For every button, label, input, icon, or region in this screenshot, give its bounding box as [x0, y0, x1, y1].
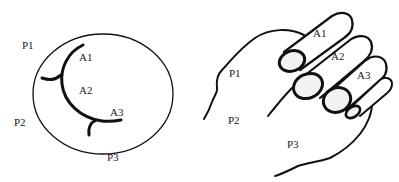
label-left-p2: P2 — [14, 117, 26, 128]
palm-circle-diagram — [33, 34, 173, 154]
label-right-p3: P3 — [287, 139, 299, 150]
thumb-line — [268, 88, 292, 116]
label-right-a3: A3 — [357, 70, 370, 81]
palm-arch-branch-left — [42, 75, 61, 80]
label-right-p2: P2 — [228, 115, 240, 126]
label-left-a1: A1 — [79, 52, 92, 63]
hand-diagram — [204, 13, 392, 176]
label-right-a1: A1 — [313, 28, 326, 39]
hand-outline-back — [204, 30, 304, 119]
label-left-a3: A3 — [110, 107, 123, 118]
palm-arch-branch-bottom — [89, 120, 96, 135]
label-left-p3: P3 — [107, 152, 119, 163]
label-right-a2: A2 — [331, 51, 344, 62]
label-right-p1: P1 — [229, 68, 241, 79]
label-left-a2: A2 — [79, 85, 92, 96]
label-left-p1: P1 — [22, 40, 34, 51]
palm-circle — [33, 34, 173, 154]
diagram-canvas — [0, 0, 399, 182]
